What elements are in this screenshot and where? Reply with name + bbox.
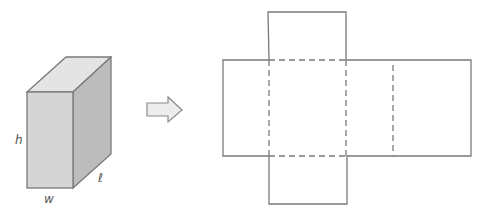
box-front-face <box>27 92 73 188</box>
right-arrow-icon <box>147 97 182 122</box>
rectangular-prism: h w ℓ <box>15 57 111 206</box>
height-label: h <box>15 133 23 147</box>
diagram-canvas: h w ℓ <box>0 0 493 215</box>
net-outline <box>223 12 471 204</box>
box-net <box>223 12 471 204</box>
width-label: w <box>44 192 54 206</box>
fold-lines <box>269 60 393 156</box>
length-label: ℓ <box>97 171 103 185</box>
